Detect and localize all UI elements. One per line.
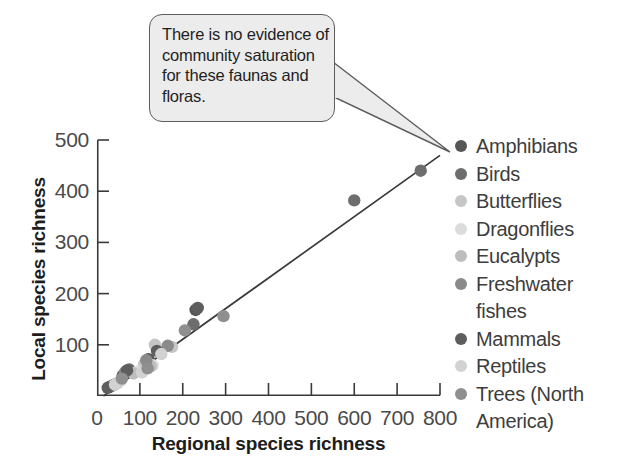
legend-item-label: Mammals <box>476 326 561 352</box>
data-point <box>415 165 427 177</box>
legend-item[interactable]: Butterflies <box>455 188 619 216</box>
legend-item-label-continued: America) <box>476 408 554 434</box>
legend-marker-icon <box>455 195 467 207</box>
y-axis-title: Local species richness <box>28 154 50 404</box>
x-tick-label: 300 <box>209 406 243 430</box>
annotation-callout-text: There is no evidence of community satura… <box>162 24 330 106</box>
legend-item-label: Dragonflies <box>476 216 574 242</box>
legend-item[interactable]: Eucalypts <box>455 243 619 271</box>
data-point <box>348 194 360 206</box>
x-tick-label: 100 <box>123 406 157 430</box>
legend-marker-icon <box>455 250 467 262</box>
legend-item[interactable]: Reptiles <box>455 353 619 381</box>
data-point <box>141 362 153 374</box>
x-tick-label: 200 <box>166 406 200 430</box>
legend-marker-icon <box>455 333 467 345</box>
legend-item[interactable]: Mammals <box>455 326 619 354</box>
data-point <box>155 348 167 360</box>
legend-marker-icon <box>455 360 467 372</box>
x-axis-title: Regional species richness <box>97 433 440 455</box>
legend-marker-icon <box>455 223 467 235</box>
legend-item-label: Butterflies <box>476 188 562 214</box>
legend-item-label: Birds <box>476 161 520 187</box>
data-point <box>217 310 229 322</box>
x-tick-label: 400 <box>251 406 285 430</box>
legend-item[interactable]: Amphibians <box>455 133 619 161</box>
legend-marker-icon <box>455 278 467 290</box>
legend-item-label: Eucalypts <box>476 243 560 269</box>
x-tick-label: 500 <box>294 406 328 430</box>
figure-root: There is no evidence of community satura… <box>0 0 619 473</box>
data-point <box>192 302 204 314</box>
chart-legend: AmphibiansBirdsButterfliesDragonfliesEuc… <box>455 133 619 436</box>
legend-item[interactable]: Trees (North <box>455 381 619 409</box>
legend-item[interactable]: Freshwater <box>455 271 619 299</box>
x-tick-label: 600 <box>337 406 371 430</box>
legend-marker-icon <box>455 388 467 400</box>
legend-marker-icon <box>455 168 467 180</box>
x-tick-label: 0 <box>91 406 102 430</box>
legend-item-label: Trees (North <box>476 381 584 407</box>
legend-item-continuation: fishes <box>455 298 619 326</box>
x-tick-label: 700 <box>380 406 414 430</box>
y-tick-label: 500 <box>25 128 89 152</box>
legend-item-label: Reptiles <box>476 353 546 379</box>
legend-item[interactable]: Birds <box>455 161 619 189</box>
data-point <box>179 324 191 336</box>
legend-item-label: Freshwater <box>476 271 573 297</box>
legend-marker-icon <box>455 140 467 152</box>
axis-and-data <box>97 140 440 396</box>
x-tick-label: 800 <box>423 406 457 430</box>
legend-item-label-continued: fishes <box>476 298 526 324</box>
legend-item[interactable]: Dragonflies <box>455 216 619 244</box>
plot-area: 1002003004005000100200300400500600700800 <box>97 140 440 396</box>
legend-item-label: Amphibians <box>476 133 578 159</box>
legend-item-continuation: America) <box>455 408 619 436</box>
data-point <box>116 372 128 384</box>
annotation-callout: There is no evidence of community satura… <box>149 14 335 122</box>
